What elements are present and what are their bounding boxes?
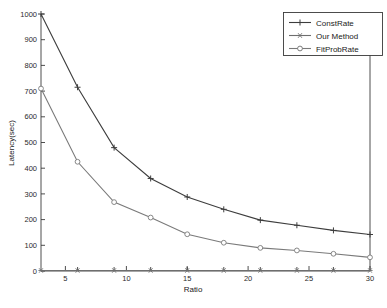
y-tick-label: 600 [24, 112, 37, 121]
legend-label: FitProbRate [316, 45, 359, 54]
data-point-circle-icon [185, 232, 190, 237]
chart-legend[interactable]: ConstRate Our Method FitProbRate [284, 13, 383, 56]
x-tick-label: 10 [122, 274, 130, 283]
legend-label: Our Method [316, 32, 358, 41]
y-axis-title: Latency(sec) [7, 120, 16, 166]
data-point-circle-icon [39, 86, 44, 91]
x-tick-label: 15 [183, 274, 191, 283]
y-tick-label: 700 [24, 87, 37, 96]
data-point-plus-icon [38, 11, 44, 17]
data-point-plus-icon [184, 194, 190, 200]
y-tick-label: 500 [24, 138, 37, 147]
data-point-plus-icon [294, 222, 300, 228]
data-point-plus-icon [75, 84, 81, 90]
data-point-circle-icon [368, 255, 373, 260]
series-our-method [38, 268, 372, 272]
x-tick-label: 25 [305, 274, 313, 283]
data-point-circle-icon [75, 159, 80, 164]
data-point-plus-icon [330, 227, 336, 233]
x-axis-title: Ratio [184, 285, 203, 294]
y-tick-label: 100 [24, 241, 37, 250]
x-tick-label: 30 [366, 274, 374, 283]
data-point-plus-icon [257, 217, 263, 223]
x-axis-ticks: 5 10 15 20 25 30 [63, 266, 374, 283]
chart-figure: 0 100 200 300 400 500 600 700 800 900 10… [0, 0, 387, 308]
data-point-circle-icon [112, 200, 117, 205]
y-tick-label: 1000 [20, 10, 37, 19]
legend-label: ConstRate [316, 19, 354, 28]
line-chart-canvas: 0 100 200 300 400 500 600 700 800 900 10… [0, 0, 387, 308]
data-point-plus-icon [367, 232, 373, 238]
x-tick-label: 20 [244, 274, 252, 283]
series-path [41, 89, 370, 258]
x-tick-label: 5 [63, 274, 67, 283]
y-tick-label: 300 [24, 190, 37, 199]
y-tick-label: 900 [24, 35, 37, 44]
data-point-circle-icon [294, 248, 299, 253]
y-tick-label: 800 [24, 61, 37, 70]
circle-icon [298, 46, 303, 51]
data-point-circle-icon [258, 245, 263, 250]
data-point-circle-icon [221, 240, 226, 245]
y-tick-label: 400 [24, 164, 37, 173]
series-fitprobrate [39, 86, 373, 260]
data-point-circle-icon [331, 251, 336, 256]
y-tick-label: 0 [33, 267, 37, 276]
y-tick-label: 200 [24, 215, 37, 224]
data-point-plus-icon [221, 206, 227, 212]
data-point-circle-icon [148, 215, 153, 220]
